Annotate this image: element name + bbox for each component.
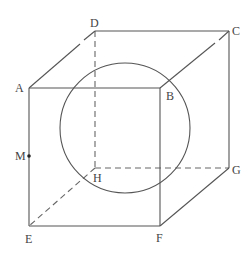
label-C: C	[232, 24, 240, 38]
inscribed-circle	[60, 63, 190, 193]
cube-diagram: A B C D E F G H M	[0, 0, 251, 255]
edge-BC	[160, 43, 215, 88]
edge-AD-end	[84, 31, 95, 40]
label-M: M	[15, 149, 26, 163]
label-E: E	[25, 232, 32, 246]
point-M-marker	[27, 154, 31, 158]
label-D: D	[90, 16, 99, 30]
label-H: H	[93, 171, 102, 185]
edge-BC-end	[219, 31, 229, 40]
edge-GF	[160, 168, 229, 226]
label-F: F	[156, 231, 163, 245]
edge-AD	[29, 44, 80, 88]
label-B: B	[166, 89, 174, 103]
label-G: G	[232, 163, 241, 177]
label-A: A	[15, 81, 24, 95]
edge-HE	[29, 168, 95, 226]
